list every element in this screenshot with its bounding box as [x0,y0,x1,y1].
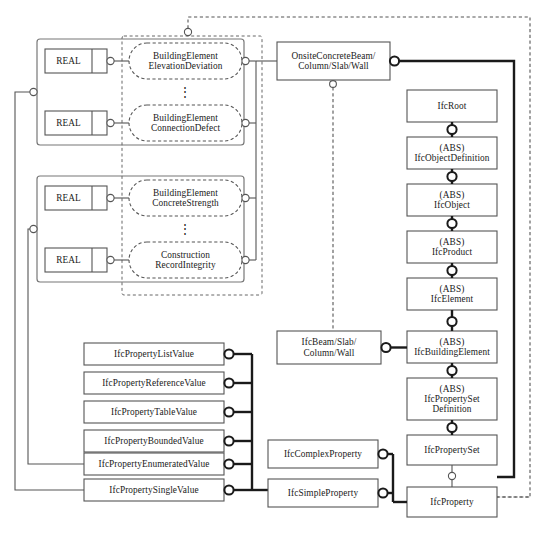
property-kind-bus [378,449,407,502]
left-feedback-line-outer [15,88,84,490]
property-value-boxes [84,343,224,501]
diagram-vector-layer: .bx { fill:#ffffff; stroke:#555555; stro… [0,0,544,533]
real-box-3 [45,186,107,210]
ellipse-bus-connectors [242,57,277,263]
property-kind-boxes [268,440,378,507]
property-value-bus [224,349,268,494]
real-to-ellipse-connectors [107,57,131,263]
express-g-diagram: .bx { fill:#ffffff; stroke:#555555; stro… [0,0,544,533]
onsite-to-ifcbeam-dashed-link [330,81,337,331]
ellipse-building-element-connection-defect [129,105,242,141]
ellipse-construction-record-integrity [129,242,242,278]
onsite-concrete-entity-box [277,42,390,80]
ellipse-building-element-elevation-deviation [129,43,242,79]
ifc-beam-entity-box [277,331,407,364]
ellipse-building-element-concrete-strength [129,180,242,216]
real-box-1 [45,49,107,73]
ifc-hierarchy-boxes [407,90,497,517]
real-box-2 [45,111,107,135]
real-box-4 [45,248,107,272]
